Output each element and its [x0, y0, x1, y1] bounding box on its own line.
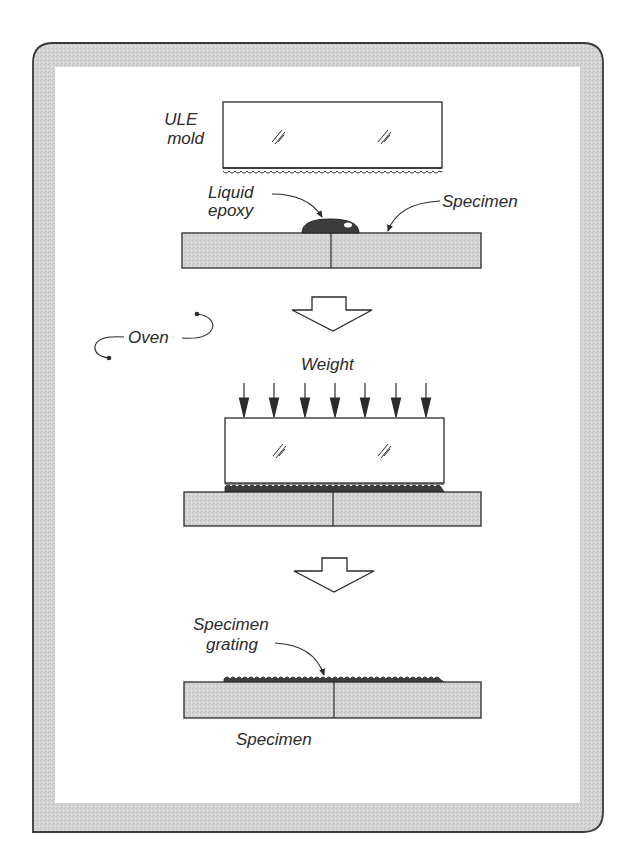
- specimen-block: [182, 233, 481, 268]
- ule-mold-label: ULE mold: [164, 110, 204, 148]
- ule-mold-pressed: [225, 418, 444, 492]
- specimen-label-top: Specimen: [442, 192, 518, 211]
- oven-label: Oven: [128, 328, 169, 347]
- specimen-grating: [224, 677, 444, 682]
- weight-label: Weight: [301, 355, 355, 374]
- liquid-epoxy-label: Liquid epoxy: [208, 183, 258, 220]
- replication-process-diagram: ULE mold Liquid epoxy Specimen Oven Weig…: [0, 0, 636, 865]
- ule-mold: [223, 102, 442, 173]
- specimen-block: [184, 682, 481, 718]
- specimen-block: [184, 492, 481, 526]
- specimen-label-bottom: Specimen: [236, 730, 312, 749]
